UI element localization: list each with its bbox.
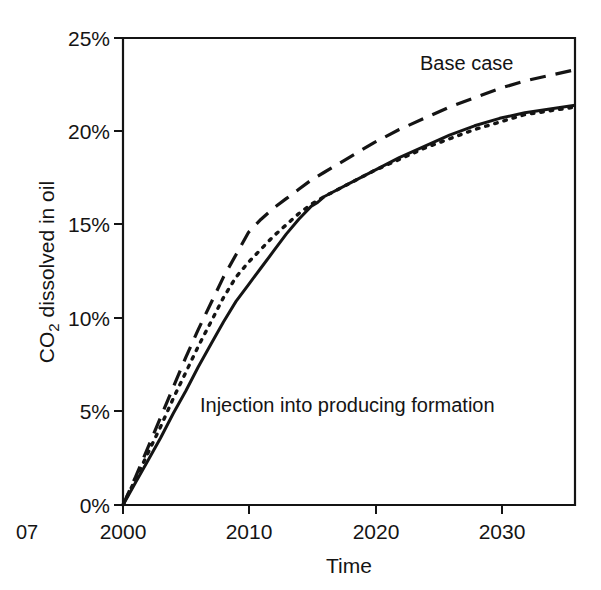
x-axis-ticks: [123, 505, 502, 514]
y-axis-ticks: [114, 38, 123, 505]
y-axis-title-prefix: CO: [35, 332, 58, 364]
y-axis-title-subscript: 2: [45, 323, 62, 331]
figure-container: 25% 20% 15% 10% 5% 0% 2000 2010 2020 203…: [0, 0, 601, 590]
x-axis-title: Time: [326, 554, 372, 577]
y-tick-label-5: 5%: [80, 400, 110, 423]
annotation-injection-into-producing-formation: Injection into producing formation: [200, 394, 495, 416]
series-line-dotted-case: [123, 107, 575, 505]
y-tick-label-15: 15%: [68, 213, 110, 236]
x-tick-label-2010: 2010: [226, 520, 273, 543]
y-axis-title-suffix: dissolved in oil: [35, 181, 58, 323]
series-line-base-case: [123, 70, 575, 505]
x-tick-label-2030: 2030: [479, 520, 526, 543]
co2-dissolved-in-oil-line-chart: 25% 20% 15% 10% 5% 0% 2000 2010 2020 203…: [0, 0, 601, 590]
y-tick-label-25: 25%: [68, 27, 110, 50]
y-axis-title: CO2 dissolved in oil: [35, 181, 62, 363]
annotation-base-case: Base case: [420, 52, 513, 74]
data-series-layer: [123, 70, 575, 505]
y-tick-labels: 25% 20% 15% 10% 5% 0%: [68, 27, 110, 517]
series-line-injection-into-producing-formation: [123, 105, 575, 505]
plot-frame: [123, 38, 575, 505]
page-corner-label: 07: [16, 521, 38, 543]
svg-text:CO2 dissolved in oil: CO2 dissolved in oil: [35, 181, 62, 363]
y-tick-label-0: 0%: [80, 494, 110, 517]
x-tick-label-2000: 2000: [100, 520, 147, 543]
y-tick-label-20: 20%: [68, 120, 110, 143]
x-tick-labels: 2000 2010 2020 2030: [100, 520, 526, 543]
y-tick-label-10: 10%: [68, 307, 110, 330]
x-tick-label-2020: 2020: [353, 520, 400, 543]
